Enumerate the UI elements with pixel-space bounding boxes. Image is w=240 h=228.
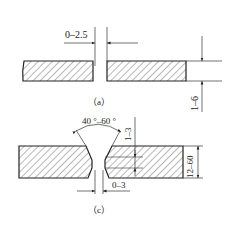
caption-a: （a） [88, 97, 110, 107]
right-plate-a [107, 61, 186, 81]
right-plate-c [105, 146, 183, 178]
groove-angle-label: 40 °–60 ° [82, 116, 117, 126]
left-plate-c [19, 146, 92, 178]
bevel-line-left [76, 130, 86, 146]
welding-joint-diagram: 0–2.5 1–6 （a） 40 °–60 ° 1–3 12–60 [0, 0, 240, 228]
figure-c: 40 °–60 ° 1–3 12–60 0–3 （c） [19, 116, 203, 215]
root-face-label: 1–3 [123, 127, 133, 141]
caption-c: （c） [88, 205, 110, 215]
figure-a: 0–2.5 1–6 （a） [23, 27, 222, 112]
left-plate-a [23, 61, 93, 81]
thickness-dimension-label: 1–6 [189, 96, 200, 111]
thickness-c-label: 12–60 [185, 155, 195, 178]
gap-dimension-label: 0–2.5 [65, 29, 88, 40]
root-gap-label: 0–3 [112, 180, 126, 190]
bevel-line-right [112, 131, 120, 146]
